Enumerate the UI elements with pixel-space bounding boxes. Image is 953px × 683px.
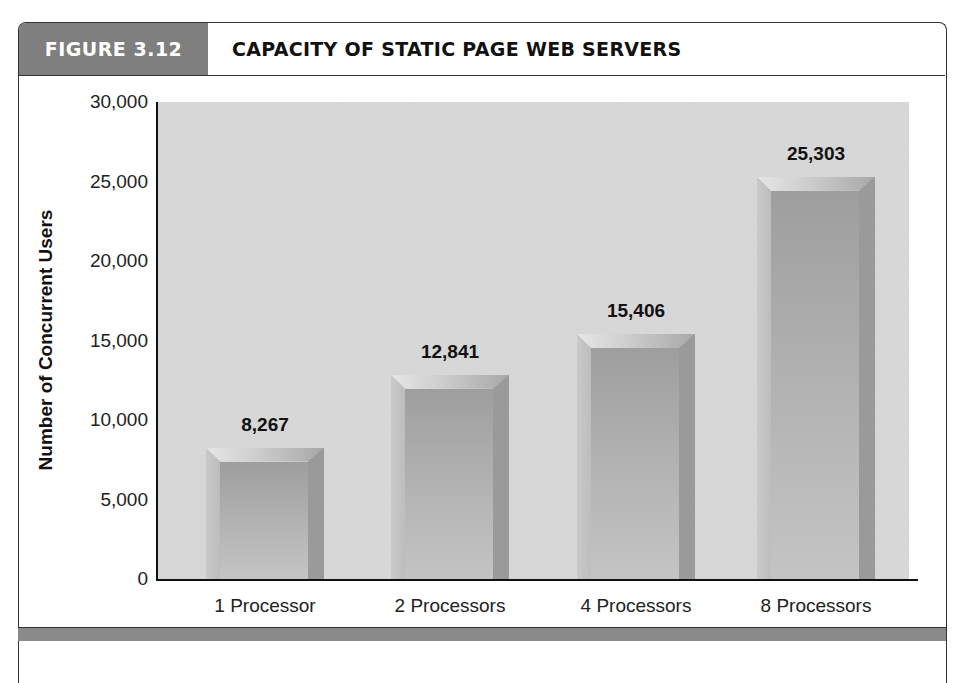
figure-title: CAPACITY OF STATIC PAGE WEB SERVERS xyxy=(232,23,682,75)
bar-side xyxy=(391,375,405,579)
x-axis-line xyxy=(156,579,918,581)
y-tick-label: 5,000 xyxy=(100,489,148,511)
bar-value-label: 8,267 xyxy=(206,414,324,436)
bar-bevel xyxy=(577,334,695,348)
bar-bevel xyxy=(391,375,509,389)
y-tick-label: 15,000 xyxy=(90,330,148,352)
bar-bevel xyxy=(206,448,324,462)
footer-band xyxy=(18,627,946,641)
bar: 12,841 xyxy=(391,375,509,579)
y-tick-label: 10,000 xyxy=(90,409,148,431)
y-tick-label: 25,000 xyxy=(90,171,148,193)
bar-face xyxy=(220,462,308,579)
bar-side xyxy=(679,334,695,579)
bar-side xyxy=(577,334,591,579)
y-tick-label: 0 xyxy=(137,568,148,590)
bar-side xyxy=(859,177,875,579)
bar-face xyxy=(771,191,859,579)
plot-area: 8,26712,84115,40625,303 xyxy=(157,102,909,579)
bar: 8,267 xyxy=(206,448,324,579)
x-tick-label: 8 Processors xyxy=(761,595,872,617)
bar-value-label: 25,303 xyxy=(757,143,875,165)
y-axis-line xyxy=(156,102,158,581)
bar-side xyxy=(308,448,324,579)
bar-side xyxy=(757,177,771,579)
bar: 15,406 xyxy=(577,334,695,579)
bar-bevel xyxy=(757,177,875,191)
bar-value-label: 12,841 xyxy=(391,341,509,363)
bar-value-label: 15,406 xyxy=(577,300,695,322)
x-tick-label: 2 Processors xyxy=(395,595,506,617)
bar-side xyxy=(493,375,509,579)
y-tick-label: 30,000 xyxy=(90,91,148,113)
y-axis-label: Number of Concurrent Users xyxy=(35,210,57,471)
bar-side xyxy=(206,448,220,579)
y-tick-label: 20,000 xyxy=(90,250,148,272)
bar-face xyxy=(405,389,493,579)
bar-face xyxy=(591,348,679,579)
x-tick-label: 4 Processors xyxy=(581,595,692,617)
x-tick-label: 1 Processor xyxy=(214,595,315,617)
bar: 25,303 xyxy=(757,177,875,579)
figure-number: FIGURE 3.12 xyxy=(19,23,208,75)
